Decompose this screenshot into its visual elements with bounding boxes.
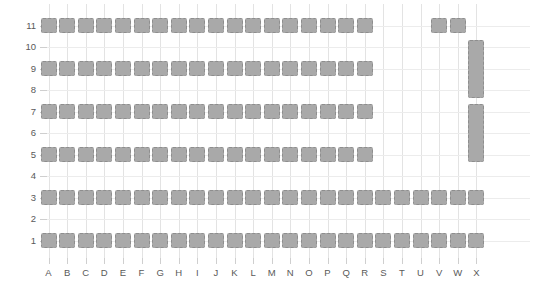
seat-cell-F3[interactable] [134, 190, 150, 205]
seat-cell-S1[interactable] [375, 233, 391, 248]
seat-cell-X1[interactable] [468, 233, 484, 248]
seat-cell-C7[interactable] [78, 104, 94, 119]
seat-cell-I9[interactable] [189, 61, 205, 76]
seat-cell-N9[interactable] [282, 61, 298, 76]
seat-cell-J11[interactable] [208, 18, 224, 33]
seat-cell-D1[interactable] [96, 233, 112, 248]
seat-cell-C1[interactable] [78, 233, 94, 248]
seat-cell-N11[interactable] [282, 18, 298, 33]
seat-cell-H9[interactable] [171, 61, 187, 76]
seat-cell-U3[interactable] [413, 190, 429, 205]
seat-cell-B11[interactable] [59, 18, 75, 33]
seat-cell-R3[interactable] [357, 190, 373, 205]
seat-cell-F1[interactable] [134, 233, 150, 248]
seat-cell-C9[interactable] [78, 61, 94, 76]
seat-cell-J1[interactable] [208, 233, 224, 248]
seat-cell-M1[interactable] [264, 233, 280, 248]
seat-cell-K3[interactable] [227, 190, 243, 205]
seat-cell-G11[interactable] [152, 18, 168, 33]
seat-cell-A7[interactable] [41, 104, 57, 119]
seat-cell-N3[interactable] [282, 190, 298, 205]
seat-cell-K11[interactable] [227, 18, 243, 33]
seat-cell-R1[interactable] [357, 233, 373, 248]
seat-cell-D3[interactable] [96, 190, 112, 205]
seat-cell-E11[interactable] [115, 18, 131, 33]
seat-cell-R7[interactable] [357, 104, 373, 119]
seat-cell-J7[interactable] [208, 104, 224, 119]
seat-cell-A9[interactable] [41, 61, 57, 76]
seat-cell-P11[interactable] [320, 18, 336, 33]
seat-cell-O3[interactable] [301, 190, 317, 205]
seat-cell-Q5[interactable] [338, 147, 354, 162]
seat-cell-E1[interactable] [115, 233, 131, 248]
seat-cell-L9[interactable] [245, 61, 261, 76]
seat-cell-P7[interactable] [320, 104, 336, 119]
seat-cell-O9[interactable] [301, 61, 317, 76]
seat-cell-G7[interactable] [152, 104, 168, 119]
seat-cell-Q9[interactable] [338, 61, 354, 76]
seat-cell-B3[interactable] [59, 190, 75, 205]
seat-cell-S3[interactable] [375, 190, 391, 205]
seat-cell-J3[interactable] [208, 190, 224, 205]
seat-cell-L1[interactable] [245, 233, 261, 248]
seat-cell-X10[interactable] [468, 40, 484, 98]
seat-cell-H11[interactable] [171, 18, 187, 33]
seat-cell-H1[interactable] [171, 233, 187, 248]
seat-cell-E7[interactable] [115, 104, 131, 119]
seat-cell-M3[interactable] [264, 190, 280, 205]
seat-cell-G5[interactable] [152, 147, 168, 162]
seat-cell-X3[interactable] [468, 190, 484, 205]
seat-cell-A11[interactable] [41, 18, 57, 33]
seat-cell-L3[interactable] [245, 190, 261, 205]
seat-cell-W3[interactable] [450, 190, 466, 205]
seat-cell-H5[interactable] [171, 147, 187, 162]
seat-cell-R11[interactable] [357, 18, 373, 33]
seat-cell-R9[interactable] [357, 61, 373, 76]
seat-cell-R5[interactable] [357, 147, 373, 162]
seat-cell-Q1[interactable] [338, 233, 354, 248]
seat-cell-M7[interactable] [264, 104, 280, 119]
seat-cell-A5[interactable] [41, 147, 57, 162]
seat-cell-Q3[interactable] [338, 190, 354, 205]
seat-cell-I7[interactable] [189, 104, 205, 119]
seat-cell-O1[interactable] [301, 233, 317, 248]
seat-cell-M9[interactable] [264, 61, 280, 76]
seat-cell-Q7[interactable] [338, 104, 354, 119]
seat-cell-K9[interactable] [227, 61, 243, 76]
seat-cell-G1[interactable] [152, 233, 168, 248]
seat-cell-P9[interactable] [320, 61, 336, 76]
seat-cell-K1[interactable] [227, 233, 243, 248]
seat-cell-O5[interactable] [301, 147, 317, 162]
seat-cell-F9[interactable] [134, 61, 150, 76]
seat-cell-L5[interactable] [245, 147, 261, 162]
seat-cell-K5[interactable] [227, 147, 243, 162]
seat-cell-A1[interactable] [41, 233, 57, 248]
seat-cell-P1[interactable] [320, 233, 336, 248]
seat-cell-I1[interactable] [189, 233, 205, 248]
seat-cell-H7[interactable] [171, 104, 187, 119]
seat-cell-C3[interactable] [78, 190, 94, 205]
seat-cell-L11[interactable] [245, 18, 261, 33]
seat-cell-F5[interactable] [134, 147, 150, 162]
seat-cell-H3[interactable] [171, 190, 187, 205]
seat-cell-B7[interactable] [59, 104, 75, 119]
seat-cell-N5[interactable] [282, 147, 298, 162]
seat-cell-E5[interactable] [115, 147, 131, 162]
seat-cell-O11[interactable] [301, 18, 317, 33]
seat-cell-I11[interactable] [189, 18, 205, 33]
seat-cell-W1[interactable] [450, 233, 466, 248]
seat-cell-X7[interactable] [468, 104, 484, 162]
seat-cell-D7[interactable] [96, 104, 112, 119]
seat-cell-I3[interactable] [189, 190, 205, 205]
seat-cell-D9[interactable] [96, 61, 112, 76]
seat-cell-Q11[interactable] [338, 18, 354, 33]
seat-cell-J9[interactable] [208, 61, 224, 76]
seat-cell-O7[interactable] [301, 104, 317, 119]
seat-cell-L7[interactable] [245, 104, 261, 119]
seat-cell-P3[interactable] [320, 190, 336, 205]
seat-cell-D11[interactable] [96, 18, 112, 33]
seat-cell-B9[interactable] [59, 61, 75, 76]
seat-cell-G3[interactable] [152, 190, 168, 205]
seat-cell-C5[interactable] [78, 147, 94, 162]
seat-cell-K7[interactable] [227, 104, 243, 119]
